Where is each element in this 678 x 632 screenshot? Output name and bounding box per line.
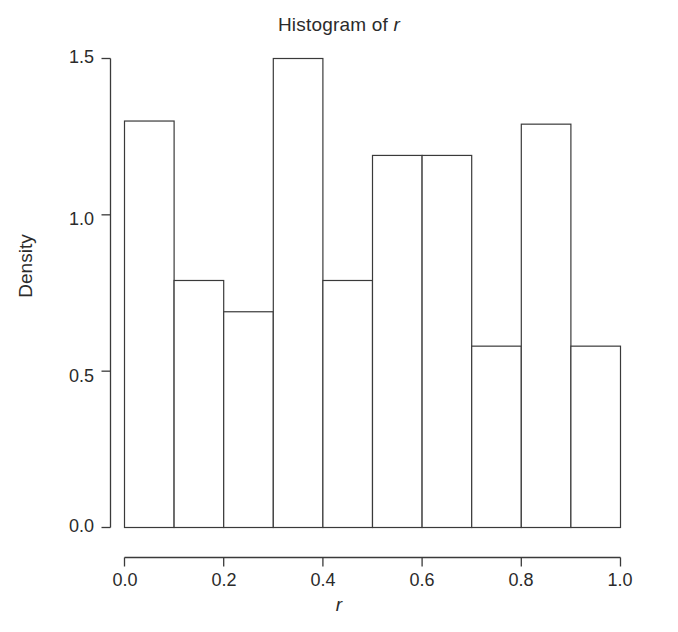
histogram-bar <box>224 312 274 528</box>
histogram-bars <box>125 59 621 528</box>
histogram-bar <box>571 346 621 527</box>
histogram-bar <box>521 124 571 527</box>
histogram-bar <box>125 121 175 527</box>
histogram-figure: Histogram of r Density r 1.5 1.0 0.5 0.0… <box>0 0 678 632</box>
histogram-bar <box>422 155 472 527</box>
histogram-bar <box>273 59 323 528</box>
histogram-bar <box>323 280 373 527</box>
plot-area <box>0 0 678 632</box>
histogram-bar <box>373 155 423 527</box>
histogram-bar <box>472 346 522 527</box>
histogram-bar <box>174 280 224 527</box>
